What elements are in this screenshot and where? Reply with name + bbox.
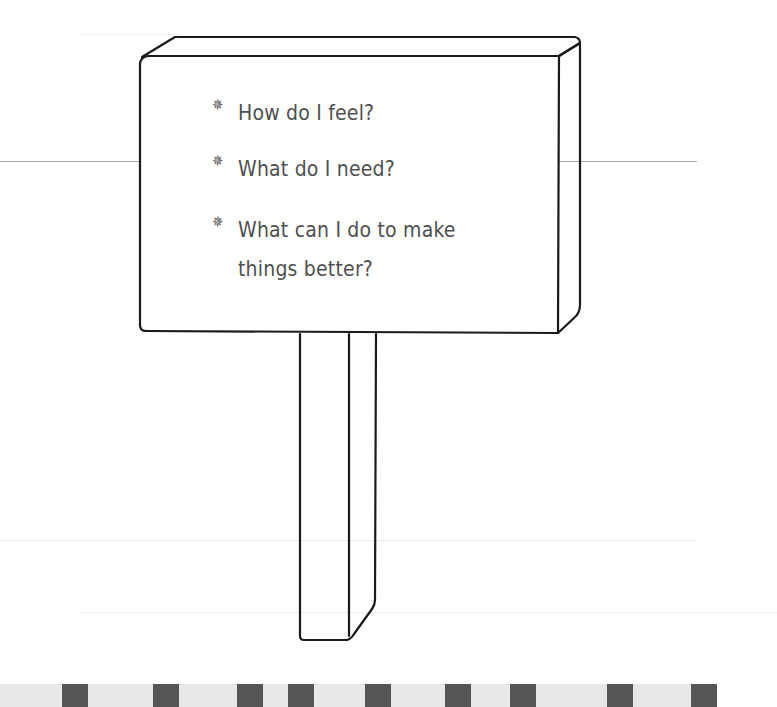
- sign-item: ✵ How do I feel?: [212, 94, 542, 133]
- sun-bullet-icon: ✵: [212, 96, 224, 114]
- band-block: [510, 684, 536, 707]
- sun-bullet-icon: ✵: [212, 213, 224, 231]
- sign-board-top: [142, 37, 580, 57]
- sign-item-text: How do I feel?: [238, 94, 542, 133]
- band-block: [365, 684, 391, 707]
- sign-text: ✵ How do I feel? ✵ What do I need? ✵ Wha…: [212, 94, 542, 289]
- bottom-band: [0, 684, 697, 707]
- sign-board-side: [558, 43, 580, 333]
- band-block: [237, 684, 263, 707]
- band-block: [445, 684, 471, 707]
- band-block: [153, 684, 179, 707]
- band-block: [607, 684, 633, 707]
- sign-item-text: What can I do to make things better?: [238, 211, 488, 289]
- sign-post: [300, 334, 376, 640]
- band-block: [62, 684, 88, 707]
- sign-item: ✵ What can I do to make things better?: [212, 211, 488, 289]
- band-block: [288, 684, 314, 707]
- band-block: [691, 684, 717, 707]
- sign-item-text: What do I need?: [238, 150, 542, 189]
- sign-item: ✵ What do I need?: [212, 150, 542, 189]
- sun-bullet-icon: ✵: [212, 152, 224, 170]
